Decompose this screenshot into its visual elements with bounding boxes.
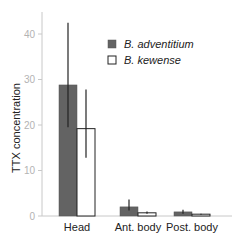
- y-tick-label: 10: [24, 165, 36, 176]
- legend-swatch-adventitium: [108, 40, 116, 48]
- y-tick-label: 30: [24, 74, 36, 85]
- y-tick-label: 40: [24, 29, 36, 40]
- legend-label-kewense: B. kewense: [124, 54, 181, 66]
- legend-swatch-kewense: [108, 56, 116, 64]
- x-category-label: Head: [64, 221, 90, 233]
- legend: B. adventitium B. kewense: [108, 38, 194, 66]
- y-tick-label: 20: [24, 120, 36, 131]
- x-category-label: Ant. body: [115, 221, 162, 233]
- y-axis-title: TTX concentration: [10, 83, 22, 173]
- bars: [59, 23, 210, 216]
- y-tick-label: 0: [29, 211, 35, 222]
- x-category-label: Post. body: [166, 221, 218, 233]
- y-ticks: 010203040: [24, 29, 42, 222]
- bar-chart: 010203040 HeadAnt. bodyPost. body TTX co…: [0, 0, 235, 245]
- x-category-labels: HeadAnt. bodyPost. body: [64, 221, 219, 233]
- legend-label-adventitium: B. adventitium: [124, 38, 194, 50]
